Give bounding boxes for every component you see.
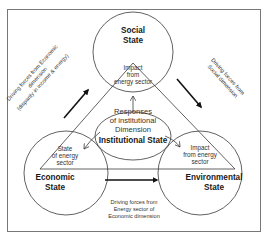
diagram-canvas: Social State Impact from energy sector R…	[0, 0, 266, 238]
environmental-title-line2: State	[204, 183, 224, 192]
economic-to-social-label: Driving forces from Economic dimension (…	[5, 43, 69, 111]
economic-to-environmental-label: Driving forces from Energy sector of Eco…	[108, 199, 160, 219]
social-title-line2: State	[123, 36, 143, 45]
economic-inner-line3: sector	[56, 159, 73, 166]
economic-title-line1: Economic	[35, 173, 75, 182]
institutional-line2: of institutional	[110, 116, 157, 125]
environmental-inner-label: Impact from energy sector	[183, 144, 217, 165]
social-to-environmental-arrow	[177, 79, 201, 107]
social-state-label: Social State	[121, 26, 145, 45]
economic-to-social-arrow	[64, 90, 88, 118]
social-inner-line2: from	[127, 71, 140, 78]
social-inner-label: Impact from energy sector	[114, 64, 152, 86]
economic-inner-line1: State	[58, 145, 73, 152]
institutional-title: Institutional State	[99, 136, 168, 145]
institutional-line3: Dimension	[115, 125, 151, 134]
economic-to-environmental-line1: Driving forces from	[111, 199, 158, 205]
economic-inner-label: State of energy sector	[52, 145, 79, 166]
institutional-label: Responses of institutional Dimension Ins…	[99, 107, 168, 145]
social-to-environmental-label: Driving forces from Social dimension	[205, 57, 246, 101]
social-inner-line3: energy sector	[114, 78, 152, 86]
environmental-title-line1: Environmental	[186, 173, 243, 182]
economic-to-environmental-line2: Energy sector of	[114, 206, 155, 212]
environmental-state-label: Environmental State	[186, 173, 243, 192]
economic-state-label: Economic State	[35, 173, 75, 192]
environmental-inner-line3: sector	[191, 158, 208, 165]
economic-title-line2: State	[45, 183, 65, 192]
institutional-line1: Responses	[114, 107, 152, 116]
social-title-line1: Social	[121, 26, 145, 35]
economic-to-environmental-line3: Economic dimension	[108, 213, 160, 219]
